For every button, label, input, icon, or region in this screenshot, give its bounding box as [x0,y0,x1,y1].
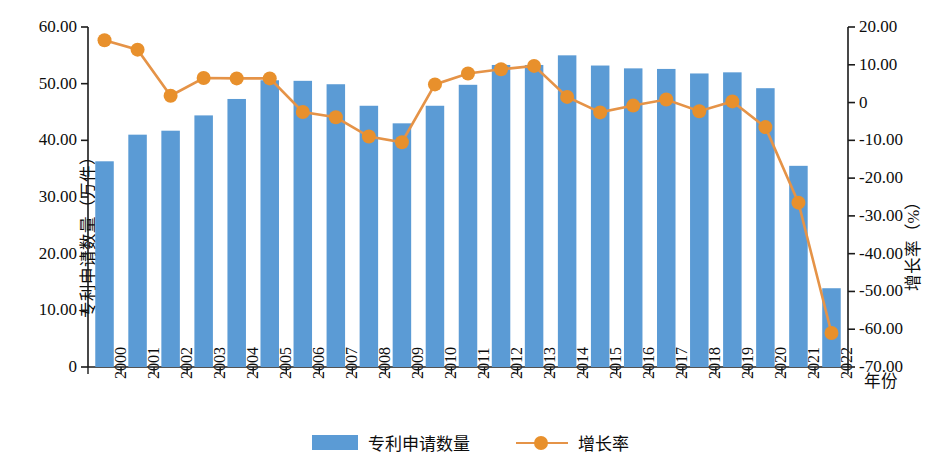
growth-rate-point-2017 [659,93,673,107]
legend-bar-swatch-icon [312,435,358,450]
growth-rate-point-2002 [164,89,178,103]
bar-2012 [492,65,511,367]
bar-2007 [327,84,346,367]
chart-legend: 专利申请数量 增长率 [0,430,940,455]
growth-rate-point-2021 [791,196,805,210]
growth-rate-point-2020 [758,120,772,134]
bar-2003 [194,115,213,367]
bar-2009 [393,123,412,367]
growth-rate-point-2006 [296,105,310,119]
growth-rate-point-2010 [428,77,442,91]
growth-rate-point-2012 [494,62,508,76]
bar-2017 [657,69,676,367]
legend-line-marker-icon [516,436,568,450]
growth-rate-point-2013 [527,59,541,73]
bar-2006 [294,81,313,367]
growth-rate-point-2003 [197,71,211,85]
bar-2016 [624,68,643,367]
bar-2013 [525,65,544,367]
bar-2010 [426,106,445,367]
legend-label-bars: 专利申请数量 [368,430,470,455]
bar-2004 [227,99,246,367]
patent-application-chart: 专利申请数量（万件） 增长率（%） 年份 010.0020.0030.0040.… [0,0,940,466]
growth-rate-point-2000 [98,33,112,47]
growth-rate-point-2014 [560,90,574,104]
growth-rate-point-2001 [131,43,145,57]
bar-2001 [128,135,147,367]
plot-area [0,0,940,466]
growth-rate-point-2015 [593,105,607,119]
bar-2008 [360,106,379,367]
bar-2005 [260,80,279,367]
bar-2000 [95,161,114,367]
bar-2011 [459,85,478,367]
legend-item-line: 增长率 [516,430,629,455]
growth-rate-point-2004 [230,71,244,85]
legend-item-bars: 专利申请数量 [312,430,470,455]
growth-rate-point-2005 [263,71,277,85]
bar-2002 [161,131,180,367]
growth-rate-point-2007 [329,110,343,124]
growth-rate-point-2016 [626,99,640,113]
growth-rate-point-2009 [395,135,409,149]
growth-rate-point-2018 [692,104,706,118]
bar-2019 [723,72,742,367]
growth-rate-point-2022 [824,326,838,340]
growth-rate-point-2011 [461,66,475,80]
legend-label-line: 增长率 [578,430,629,455]
growth-rate-point-2008 [362,130,376,144]
growth-rate-point-2019 [725,94,739,108]
